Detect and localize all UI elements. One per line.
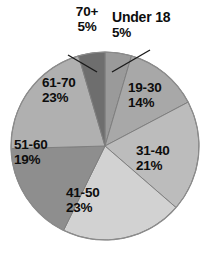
pie-label-70-plus-value: 5% — [64, 19, 110, 34]
pie-label-70-plus-name: 70+ — [64, 4, 110, 19]
pie-label-19-30-name: 19-30 — [128, 80, 162, 95]
pie-label-19-30: 19-30 14% — [128, 80, 162, 110]
pie-label-31-40: 31-40 21% — [136, 143, 170, 173]
pie-label-41-50-value: 23% — [66, 200, 100, 215]
pie-label-41-50-name: 41-50 — [66, 185, 100, 200]
pie-label-under-18-name: Under 18 — [112, 10, 204, 25]
pie-label-31-40-value: 21% — [136, 158, 170, 173]
pie-label-19-30-value: 14% — [128, 95, 162, 110]
pie-label-51-60-name: 51-60 — [14, 137, 48, 152]
pie-label-61-70-value: 23% — [42, 90, 76, 105]
pie-label-31-40-name: 31-40 — [136, 143, 170, 158]
pie-label-under-18-value: 5% — [112, 25, 204, 40]
pie-label-51-60: 51-60 19% — [14, 137, 48, 167]
pie-label-51-60-value: 19% — [14, 152, 48, 167]
pie-label-61-70: 61-70 23% — [42, 75, 76, 105]
pie-label-41-50: 41-50 23% — [66, 185, 100, 215]
pie-label-70-plus: 70+ 5% — [64, 4, 110, 34]
pie-label-under-18: Under 18 5% — [112, 10, 204, 40]
pie-label-61-70-name: 61-70 — [42, 75, 76, 90]
pie-chart: 70+ 5% Under 18 5% 19-30 14% 31-40 21% 4… — [0, 0, 212, 253]
